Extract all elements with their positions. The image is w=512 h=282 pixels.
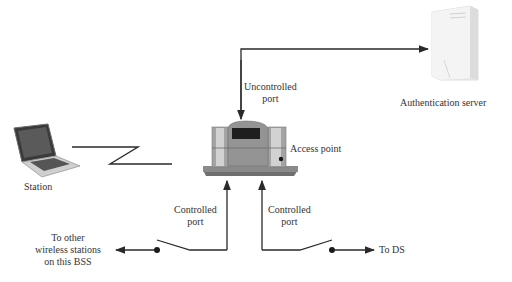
- wireless-link: [72, 147, 172, 164]
- other-stations-label: To other wireless stations on this BSS: [35, 232, 101, 268]
- laptop-icon: [14, 124, 80, 177]
- ds-label: To DS: [379, 244, 405, 256]
- other-stations-line1: To other: [35, 232, 101, 244]
- access-point-icon: [203, 121, 298, 176]
- controlled-port-left-line1: Controlled: [174, 204, 217, 216]
- controlled-port-left-line2: port: [174, 216, 217, 228]
- other-stations-line2: wireless stations: [35, 244, 101, 256]
- uncontrolled-port-label: Uncontrolled port: [244, 81, 297, 105]
- controlled-port-right-label: Controlled port: [268, 204, 311, 228]
- access-point-label: Access point: [290, 143, 341, 155]
- auth-server-label: Authentication server: [400, 97, 486, 109]
- server-icon: [432, 6, 478, 80]
- controlled-port-left-label: Controlled port: [174, 204, 217, 228]
- station-label: Station: [24, 181, 52, 193]
- uncontrolled-port-label-line1: Uncontrolled: [244, 81, 297, 93]
- controlled-port-right-line1: Controlled: [268, 204, 311, 216]
- other-stations-line3: on this BSS: [35, 256, 101, 268]
- controlled-port-right-line2: port: [268, 216, 311, 228]
- uncontrolled-port-label-line2: port: [244, 93, 297, 105]
